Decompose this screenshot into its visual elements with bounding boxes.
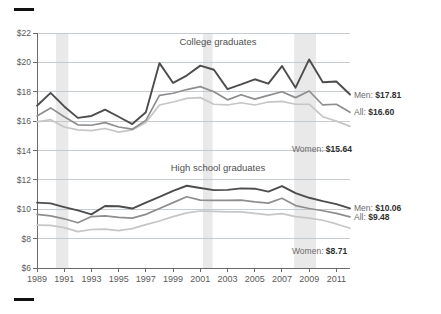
bottom-divider-rule xyxy=(14,298,34,301)
xtick-label-1999: 1999 xyxy=(163,274,183,284)
top-divider-rule xyxy=(14,8,34,11)
ytick-label-6: $6 xyxy=(22,263,32,273)
ytick-label-12: $12 xyxy=(17,175,31,185)
ytick-label-10: $10 xyxy=(17,204,31,214)
end-label-college-graduates-men: Men: $17.81 xyxy=(354,90,402,100)
line-chart: $6$8$10$12$14$16$18$20$22198919911993199… xyxy=(0,24,441,286)
xtick-label-2011: 2011 xyxy=(327,274,346,284)
panel-title-high-school-graduates: High school graduates xyxy=(171,162,266,173)
xtick-label-1997: 1997 xyxy=(136,274,156,284)
ytick-label-20: $20 xyxy=(17,57,31,67)
ytick-label-22: $22 xyxy=(17,28,31,38)
end-label-college-graduates-all: All: $16.60 xyxy=(354,107,394,117)
xtick-label-2001: 2001 xyxy=(190,274,210,284)
ytick-label-16: $16 xyxy=(17,116,31,126)
ytick-label-14: $14 xyxy=(17,146,31,156)
ytick-label-8: $8 xyxy=(22,234,32,244)
xtick-label-2003: 2003 xyxy=(218,274,238,284)
plot-area: $6$8$10$12$14$16$18$20$22198919911993199… xyxy=(0,24,441,286)
panel-title-college-graduates: College graduates xyxy=(179,36,256,47)
end-label-college-graduates-women: Women: $15.64 xyxy=(292,144,352,154)
xtick-label-1989: 1989 xyxy=(27,274,47,284)
end-label-high-school-graduates-all: All: $9.48 xyxy=(354,212,390,222)
end-label-high-school-graduates-women: Women: $8.71 xyxy=(292,246,347,256)
xtick-label-1993: 1993 xyxy=(81,274,101,284)
xtick-label-2005: 2005 xyxy=(245,274,265,284)
xtick-label-1995: 1995 xyxy=(109,274,129,284)
chart-figure: $6$8$10$12$14$16$18$20$22198919911993199… xyxy=(0,0,441,314)
xtick-label-2009: 2009 xyxy=(299,274,319,284)
ytick-label-18: $18 xyxy=(17,87,31,97)
xtick-label-1991: 1991 xyxy=(54,274,74,284)
xtick-label-2007: 2007 xyxy=(272,274,292,284)
